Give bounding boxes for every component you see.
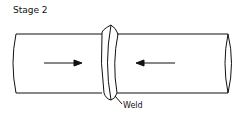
right-bar-end [225,34,232,93]
weld-band [101,25,118,100]
arrow-left-icon [136,60,175,66]
weld-leader-line [115,96,122,104]
weld-diagram [0,0,241,116]
arrow-right-icon [44,60,82,66]
weld-label: Weld [123,101,143,110]
